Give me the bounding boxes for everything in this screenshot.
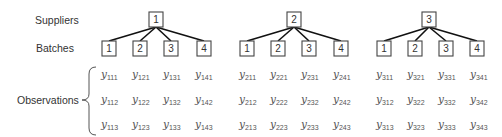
svg-text:1: 1: [244, 43, 250, 54]
observation-value: y141: [194, 68, 213, 81]
batch-box: 3: [302, 41, 316, 56]
supplier-box: 2: [287, 12, 301, 27]
observation-value: y221: [269, 68, 288, 81]
svg-text:3: 3: [168, 43, 174, 54]
supplier-trees: 11234y111y121y131y141y112y122y132y142y11…: [100, 12, 488, 131]
svg-text:1: 1: [381, 43, 387, 54]
batch-box: 3: [439, 41, 453, 56]
observation-value: y232: [300, 93, 319, 106]
batch-box: 2: [271, 41, 285, 56]
svg-text:3: 3: [306, 43, 312, 54]
batch-box: 2: [408, 41, 422, 56]
svg-text:1: 1: [106, 43, 112, 54]
observation-value: y211: [238, 68, 256, 81]
svg-text:2: 2: [275, 43, 281, 54]
observation-value: y222: [269, 93, 288, 106]
observation-value: y342: [469, 93, 488, 106]
observation-value: y242: [332, 93, 351, 106]
svg-text:2: 2: [291, 14, 297, 25]
observation-value: y313: [375, 118, 394, 131]
svg-text:3: 3: [426, 14, 432, 25]
batch-box: 4: [470, 41, 484, 56]
observation-value: y113: [100, 118, 118, 131]
observation-value: y321: [406, 68, 425, 81]
observation-value: y341: [469, 68, 488, 81]
observation-value: y332: [437, 93, 456, 106]
observation-value: y333: [437, 118, 456, 131]
observation-value: y121: [131, 68, 150, 81]
svg-text:1: 1: [153, 14, 159, 25]
svg-text:4: 4: [338, 43, 344, 54]
batch-box: 4: [197, 41, 211, 56]
batch-box: 4: [334, 41, 348, 56]
observation-value: y243: [332, 118, 351, 131]
suppliers-label: Suppliers: [35, 14, 79, 26]
observation-value: y223: [269, 118, 288, 131]
observation-value: y123: [131, 118, 150, 131]
observation-value: y343: [469, 118, 488, 131]
supplier-box: 3: [422, 12, 436, 27]
batch-box: 1: [240, 41, 254, 56]
observation-value: y331: [437, 68, 456, 81]
svg-text:4: 4: [474, 43, 480, 54]
batch-box: 1: [102, 41, 116, 56]
observation-value: y322: [406, 93, 425, 106]
observation-value: y132: [162, 93, 181, 106]
supplier-box: 1: [149, 12, 163, 27]
observation-value: y133: [162, 118, 181, 131]
svg-text:2: 2: [137, 43, 143, 54]
batch-box: 3: [164, 41, 178, 56]
supplier-tree-3: 31234y311y321y331y341y312y322y332y342y31…: [375, 12, 488, 131]
svg-text:2: 2: [412, 43, 418, 54]
svg-text:3: 3: [443, 43, 449, 54]
svg-text:4: 4: [201, 43, 207, 54]
observation-value: y212: [238, 93, 257, 106]
batch-box: 1: [377, 41, 391, 56]
observation-value: y131: [162, 68, 181, 81]
observations-brace-icon: [82, 67, 96, 135]
observation-value: y143: [194, 118, 213, 131]
supplier-tree-2: 21234y211y221y231y241y212y222y232y242y21…: [238, 12, 351, 131]
observation-value: y142: [194, 93, 213, 106]
batch-box: 2: [133, 41, 147, 56]
observation-value: y111: [100, 68, 118, 81]
observations-label: Observations: [17, 94, 79, 106]
nested-design-diagram: Suppliers Batches Observations 11234y111…: [0, 0, 502, 137]
tree-edge: [429, 27, 477, 41]
supplier-tree-1: 11234y111y121y131y141y112y122y132y142y11…: [100, 12, 213, 131]
observation-value: y122: [131, 93, 150, 106]
observation-value: y312: [375, 93, 394, 106]
observation-value: y231: [300, 68, 319, 81]
observation-value: y213: [238, 118, 257, 131]
observation-value: y233: [300, 118, 319, 131]
observation-value: y241: [332, 68, 351, 81]
observation-value: y112: [100, 93, 118, 106]
observation-value: y311: [375, 68, 393, 81]
observation-value: y323: [406, 118, 425, 131]
batches-label: Batches: [36, 42, 74, 54]
